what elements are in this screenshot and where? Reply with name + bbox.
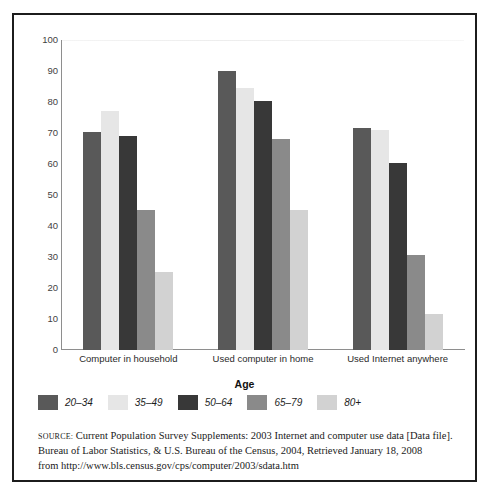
source-note: Source: Current Population Survey Supple…	[38, 428, 458, 474]
legend-label: 35–49	[135, 397, 163, 408]
legend-item: 65–79	[247, 395, 302, 410]
bar	[137, 210, 155, 350]
x-tick-label: Used Internet anywhere	[288, 353, 477, 364]
y-tick-label: 10	[16, 314, 58, 324]
bar	[290, 210, 308, 350]
bar	[119, 136, 137, 350]
bar-group	[83, 40, 173, 350]
bar-group	[218, 40, 308, 350]
bar-group	[353, 40, 443, 350]
y-tick-label: 90	[16, 66, 58, 76]
source-label: Source:	[38, 432, 73, 441]
bar	[425, 314, 443, 350]
legend-swatch	[178, 395, 198, 410]
bar	[272, 139, 290, 350]
y-tick-label: 30	[16, 252, 58, 262]
y-tick-label: 40	[16, 221, 58, 231]
legend-swatch	[317, 395, 337, 410]
bar	[236, 88, 254, 350]
y-axis-ticks: 1009080706050403020100	[14, 15, 58, 480]
y-tick-label: 50	[16, 190, 58, 200]
bar	[101, 111, 119, 350]
legend-swatch	[108, 395, 128, 410]
legend-label: 20–34	[65, 397, 93, 408]
bar	[155, 272, 173, 350]
source-line: Current Population Survey Supplements: 2…	[76, 430, 453, 441]
bar	[371, 130, 389, 350]
legend-swatch	[247, 395, 267, 410]
source-line: from http://www.bls.census.gov/cps/compu…	[38, 458, 458, 473]
legend-swatch	[38, 395, 58, 410]
legend-label: 50–64	[205, 397, 233, 408]
y-tick-label: 60	[16, 159, 58, 169]
plot-area: 1009080706050403020100 % Yes Computer in…	[14, 15, 475, 480]
source-text: Current Population Survey Supplements: 2…	[38, 430, 458, 474]
legend-label: 80+	[344, 397, 361, 408]
legend-item: 80+	[317, 395, 361, 410]
bar	[83, 132, 101, 350]
bar-groups: Computer in householdUsed computer in ho…	[61, 40, 465, 350]
legend-item: 50–64	[178, 395, 233, 410]
legend-label: 65–79	[274, 397, 302, 408]
y-tick-label: 80	[16, 97, 58, 107]
legend-item: 20–34	[38, 395, 93, 410]
bar	[254, 101, 272, 350]
y-tick-label: 70	[16, 128, 58, 138]
y-tick-label: 20	[16, 283, 58, 293]
y-tick-label: 100	[16, 35, 58, 45]
bar	[353, 128, 371, 350]
bar	[407, 255, 425, 350]
legend-item: 35–49	[108, 395, 163, 410]
bar	[389, 163, 407, 350]
chart-legend: 20–3435–4950–6465–7980+	[38, 395, 376, 410]
chart-figure: 1009080706050403020100 % Yes Computer in…	[12, 13, 477, 482]
bar	[218, 71, 236, 350]
source-line: Bureau of Labor Statistics, & U.S. Burea…	[38, 443, 458, 458]
x-axis-title: Age	[14, 378, 475, 390]
